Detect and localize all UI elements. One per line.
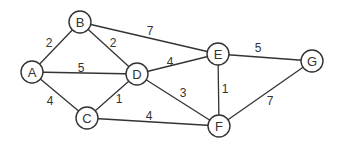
edge-weights-layer: 254271443157 xyxy=(46,24,274,123)
edge-weight-a-d: 5 xyxy=(78,61,85,75)
weighted-graph-diagram: 254271443157 ABCDEFG xyxy=(0,0,341,144)
edge-a-d xyxy=(32,72,137,74)
node-label: E xyxy=(214,47,223,62)
node-label: F xyxy=(215,119,223,134)
edge-d-e xyxy=(137,54,218,74)
edge-weight-f-g: 7 xyxy=(267,94,274,108)
node-label: C xyxy=(82,111,91,126)
node-f: F xyxy=(208,115,230,137)
edge-weight-c-d: 1 xyxy=(116,92,123,106)
edge-weight-e-g: 5 xyxy=(255,41,262,55)
node-label: G xyxy=(307,54,317,69)
node-label: B xyxy=(76,15,85,30)
node-e: E xyxy=(207,43,229,65)
node-label: A xyxy=(28,65,37,80)
edge-weight-a-b: 2 xyxy=(46,36,53,50)
node-g: G xyxy=(301,50,323,72)
node-b: B xyxy=(69,11,91,33)
edge-weight-b-d: 2 xyxy=(110,36,117,50)
node-label: D xyxy=(132,67,141,82)
edge-weight-d-f: 3 xyxy=(180,86,187,100)
edges-layer xyxy=(32,22,312,126)
node-c: C xyxy=(76,107,98,129)
edge-c-f xyxy=(87,118,219,126)
node-a: A xyxy=(21,61,43,83)
edge-weight-c-f: 4 xyxy=(146,109,153,123)
edge-weight-a-c: 4 xyxy=(47,94,54,108)
nodes-layer: ABCDEFG xyxy=(21,11,323,137)
edge-weight-b-e: 7 xyxy=(147,24,154,38)
edge-weight-e-f: 1 xyxy=(222,82,229,96)
node-d: D xyxy=(126,63,148,85)
edge-weight-d-e: 4 xyxy=(167,55,174,69)
edge-f-g xyxy=(219,61,312,126)
edge-e-g xyxy=(218,54,312,61)
